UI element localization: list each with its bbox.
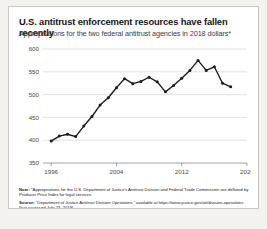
data-series-line bbox=[51, 60, 231, 141]
data-point-marker bbox=[139, 80, 142, 83]
y-axis-tick-label: 500 bbox=[29, 91, 40, 98]
source-label: Source: bbox=[19, 200, 35, 205]
data-point-marker bbox=[66, 133, 69, 136]
data-point-marker bbox=[180, 77, 183, 80]
note-label: Note: bbox=[19, 187, 30, 192]
chart-source: Source: "Department of Justice Antitrust… bbox=[19, 200, 251, 209]
y-axis-tick-label: 600 bbox=[29, 45, 40, 52]
data-point-marker bbox=[164, 90, 167, 93]
data-point-marker bbox=[213, 65, 216, 68]
data-point-marker bbox=[221, 82, 224, 85]
y-axis-tick-label: 400 bbox=[29, 136, 40, 143]
chart-plot-area: 3504004505005506001996200420122020 bbox=[19, 39, 251, 187]
data-point-marker bbox=[131, 82, 134, 85]
data-point-marker bbox=[188, 69, 191, 72]
data-point-marker bbox=[229, 85, 232, 88]
chart-subtitle: Appropriations for the two federal antit… bbox=[19, 29, 253, 38]
x-axis-tick-label: 2020 bbox=[240, 168, 251, 175]
y-axis-tick-label: 350 bbox=[29, 159, 40, 166]
data-point-marker bbox=[197, 59, 200, 62]
data-point-marker bbox=[148, 76, 151, 79]
source-text: "Department of Justice Antitrust Divisio… bbox=[19, 200, 243, 209]
note-text: *Appropriations for the U.S. Department … bbox=[19, 187, 248, 197]
data-point-marker bbox=[205, 69, 208, 72]
data-point-marker bbox=[107, 96, 110, 99]
data-point-marker bbox=[82, 125, 85, 128]
data-point-marker bbox=[172, 84, 175, 87]
chart-note: Note: *Appropriations for the U.S. Depar… bbox=[19, 187, 251, 198]
data-point-marker bbox=[50, 140, 53, 143]
data-point-marker bbox=[99, 104, 102, 107]
x-axis-tick-label: 2004 bbox=[110, 168, 124, 175]
x-axis-tick-label: 1996 bbox=[44, 168, 58, 175]
data-point-marker bbox=[156, 80, 159, 83]
y-axis-tick-label: 550 bbox=[29, 68, 40, 75]
line-chart-svg: 3504004505005506001996200420122020 bbox=[19, 39, 251, 187]
chart-card: U.S. antitrust enforcement resources hav… bbox=[8, 6, 259, 209]
data-point-marker bbox=[74, 135, 77, 138]
data-point-marker bbox=[115, 86, 118, 89]
x-axis-tick-label: 2012 bbox=[175, 168, 189, 175]
figure-container: U.S. antitrust enforcement resources hav… bbox=[0, 0, 267, 229]
data-point-marker bbox=[123, 77, 126, 80]
data-point-marker bbox=[58, 135, 61, 138]
data-point-marker bbox=[90, 115, 93, 118]
y-axis-tick-label: 450 bbox=[29, 114, 40, 121]
